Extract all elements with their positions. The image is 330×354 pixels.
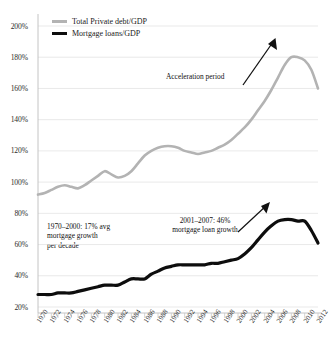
y-axis-tick-label: 100% bbox=[2, 178, 28, 187]
chart-axes bbox=[38, 14, 322, 313]
y-axis-tick-label: 20% bbox=[2, 303, 28, 312]
y-axis-tick-label: 80% bbox=[2, 209, 28, 218]
y-axis-tick-label: 180% bbox=[2, 53, 28, 62]
series-line-mortgage-loans bbox=[38, 219, 318, 294]
series-line-total-private-debt bbox=[38, 57, 318, 195]
y-axis-tick-label: 160% bbox=[2, 84, 28, 93]
y-axis-tick-label: 60% bbox=[2, 240, 28, 249]
arrow-late-growth bbox=[238, 202, 270, 232]
chart-plot-area bbox=[0, 0, 330, 354]
y-axis-tick-label: 140% bbox=[2, 115, 28, 124]
y-axis-tick-label: 40% bbox=[2, 271, 28, 280]
arrow-acceleration-period bbox=[243, 38, 277, 85]
chart-container: Total Private debt/GDP Mortgage loans/GD… bbox=[0, 0, 330, 354]
y-axis-tick-label: 200% bbox=[2, 22, 28, 31]
y-axis-tick-label: 120% bbox=[2, 146, 28, 155]
